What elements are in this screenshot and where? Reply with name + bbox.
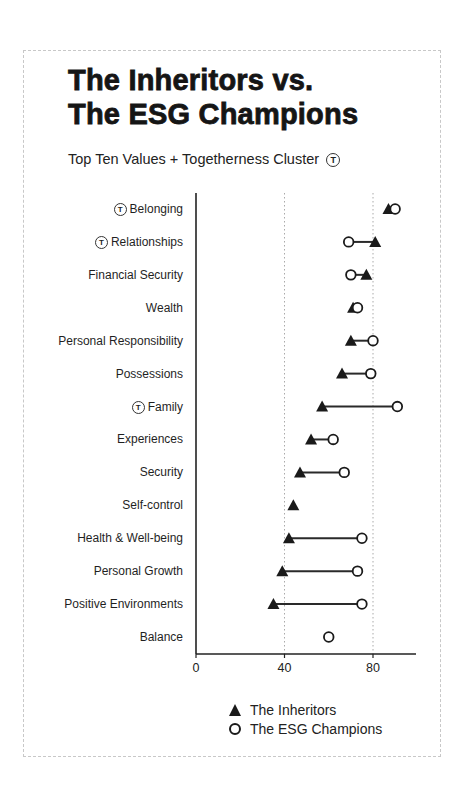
esg-champions-marker bbox=[357, 533, 367, 543]
x-tick-label-0: 0 bbox=[193, 661, 200, 675]
esg-champions-marker bbox=[346, 270, 356, 280]
esg-champions-marker bbox=[328, 435, 338, 445]
inheritors-marker bbox=[287, 499, 299, 510]
esg-champions-marker bbox=[339, 468, 349, 478]
esg-champions-marker bbox=[344, 237, 354, 247]
x-tick-label-80: 80 bbox=[366, 661, 380, 675]
esg-champions-marker bbox=[368, 336, 378, 346]
x-tick-label-40: 40 bbox=[278, 661, 292, 675]
esg-champions-marker bbox=[390, 204, 400, 214]
esg-champions-marker bbox=[357, 599, 367, 609]
esg-champions-marker bbox=[366, 369, 376, 379]
legend: The Inheritors The ESG Champions bbox=[228, 700, 382, 738]
esg-champions-marker bbox=[353, 303, 363, 313]
esg-champions-marker bbox=[324, 632, 334, 642]
esg-champions-marker bbox=[353, 566, 363, 576]
legend-item-esg-champions: The ESG Champions bbox=[228, 719, 382, 738]
open-circle-icon bbox=[228, 722, 242, 736]
filled-triangle-icon bbox=[228, 703, 242, 717]
legend-item-inheritors: The Inheritors bbox=[228, 700, 382, 719]
plot-area: 04080 bbox=[0, 0, 469, 797]
esg-champions-marker bbox=[393, 402, 403, 412]
